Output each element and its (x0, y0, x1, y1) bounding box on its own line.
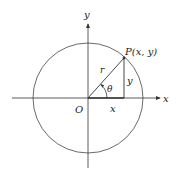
adjacent-label: x (110, 103, 116, 114)
opposite-label: y (126, 75, 133, 86)
y-axis-label: y (83, 9, 90, 20)
polar-coordinate-diagram: y x O P(x, y) r θ x y (0, 0, 177, 174)
radius-label: r (100, 65, 105, 75)
x-axis-label: x (163, 93, 169, 104)
origin-label: O (75, 104, 83, 115)
point-p (123, 57, 126, 60)
point-label: P(x, y) (124, 46, 157, 57)
angle-label: θ (107, 84, 113, 94)
